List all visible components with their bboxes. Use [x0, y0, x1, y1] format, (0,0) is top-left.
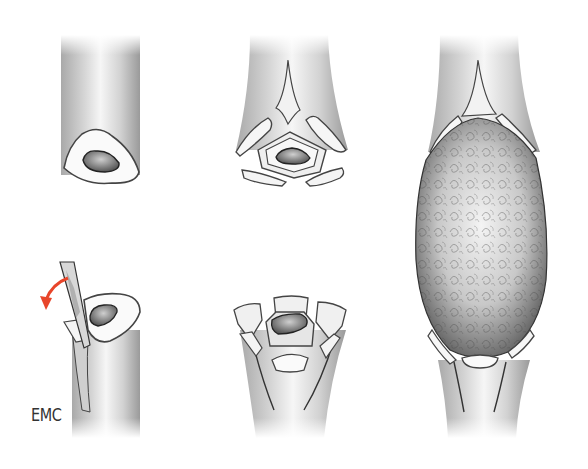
panel-bottom-middle-flaps [234, 296, 346, 438]
illustration [0, 0, 588, 469]
rotation-arrow [46, 278, 68, 300]
credit-label: EMC [31, 405, 61, 425]
panel-top-left-intact-bone [61, 35, 140, 183]
panel-top-middle-flaps [236, 35, 348, 186]
panel-right-graft [416, 35, 547, 438]
